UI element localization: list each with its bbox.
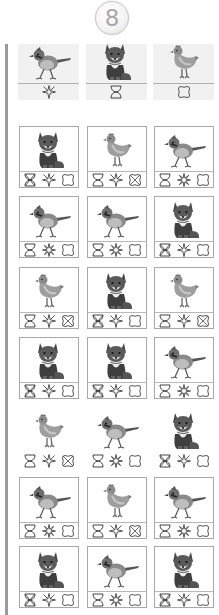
puzzle-card[interactable] [154, 546, 214, 608]
fox-icon [155, 547, 213, 590]
puzzle-card[interactable] [154, 337, 214, 399]
bird-icon [155, 127, 213, 170]
puzzle-card[interactable] [87, 407, 147, 469]
hourglass-icon [23, 243, 37, 257]
card-symbols [156, 243, 212, 257]
hen-icon [88, 478, 146, 521]
hen-icon [155, 268, 213, 311]
card-divider [20, 382, 78, 383]
bird-icon [155, 478, 213, 521]
puzzle-card[interactable] [19, 196, 79, 258]
puzzle-card[interactable] [154, 477, 214, 539]
flower-icon [128, 593, 142, 607]
flower-icon [61, 173, 75, 187]
flower-icon [196, 384, 210, 398]
fox-icon [88, 338, 146, 381]
star-icon [109, 314, 123, 328]
hourglass-icon [91, 173, 105, 187]
flower-icon [196, 173, 210, 187]
bird-icon [88, 547, 146, 590]
card-symbols [21, 454, 77, 468]
flower-crossed-icon [196, 314, 210, 328]
card-divider [88, 591, 146, 592]
card-symbols [89, 454, 145, 468]
card-symbols [89, 384, 145, 398]
puzzle-card[interactable] [19, 126, 79, 188]
card-symbols [21, 314, 77, 328]
flower-icon [61, 243, 75, 257]
card-symbols [156, 314, 212, 328]
page-number: 8 [105, 7, 120, 30]
card-divider [20, 452, 78, 453]
card-symbols [89, 173, 145, 187]
puzzle-card[interactable] [154, 407, 214, 469]
puzzle-card[interactable] [87, 477, 147, 539]
card-divider [88, 171, 146, 172]
puzzle-card[interactable] [154, 196, 214, 258]
star-icon [42, 593, 56, 607]
puzzle-card[interactable] [19, 477, 79, 539]
hourglass-icon [91, 454, 105, 468]
hourglass-icon [158, 314, 172, 328]
card-symbols [156, 524, 212, 538]
hourglass-crossed-icon [23, 593, 37, 607]
key-cell-fox [86, 44, 147, 100]
hourglass-icon [158, 384, 172, 398]
star-burst-icon [177, 524, 191, 538]
hourglass-icon [91, 524, 105, 538]
key-divider [153, 83, 214, 84]
star-icon [18, 85, 79, 99]
star-icon [177, 243, 191, 257]
puzzle-card[interactable] [87, 546, 147, 608]
bird-icon [88, 408, 146, 451]
puzzle-card[interactable] [87, 337, 147, 399]
card-divider [155, 171, 213, 172]
card-divider [88, 312, 146, 313]
puzzle-card[interactable] [19, 267, 79, 329]
card-divider [88, 452, 146, 453]
hen-icon [88, 127, 146, 170]
flower-icon [128, 384, 142, 398]
card-divider [20, 171, 78, 172]
puzzle-card[interactable] [19, 337, 79, 399]
card-divider [155, 522, 213, 523]
puzzle-card[interactable] [87, 196, 147, 258]
flower-icon [61, 384, 75, 398]
flower-icon [196, 454, 210, 468]
star-icon [177, 593, 191, 607]
star-burst-icon [177, 384, 191, 398]
star-icon [42, 314, 56, 328]
puzzle-card[interactable] [154, 126, 214, 188]
bird-icon [18, 44, 79, 82]
fox-icon [86, 44, 147, 82]
star-icon [42, 173, 56, 187]
card-symbols [21, 173, 77, 187]
star-burst-icon [177, 173, 191, 187]
key-cell-hen [153, 44, 214, 100]
flower-icon [196, 243, 210, 257]
hourglass-icon [91, 243, 105, 257]
left-margin-bar [5, 44, 8, 615]
puzzle-card[interactable] [19, 407, 79, 469]
fox-icon [155, 197, 213, 240]
flower-icon [128, 243, 142, 257]
hourglass-icon [158, 173, 172, 187]
star-icon [109, 384, 123, 398]
flower-icon [153, 85, 214, 99]
puzzle-card[interactable] [87, 267, 147, 329]
key-divider [86, 83, 147, 84]
hourglass-icon [86, 85, 147, 99]
key-cell-bird [18, 44, 79, 100]
flower-crossed-icon [61, 454, 75, 468]
fox-icon [20, 127, 78, 170]
symbol-key [18, 44, 214, 100]
puzzle-card[interactable] [154, 267, 214, 329]
card-symbols [89, 314, 145, 328]
star-burst-icon [109, 454, 123, 468]
star-icon [109, 173, 123, 187]
card-symbols [21, 524, 77, 538]
star-icon [109, 524, 123, 538]
puzzle-card[interactable] [87, 126, 147, 188]
puzzle-card[interactable] [19, 546, 79, 608]
card-symbols [156, 173, 212, 187]
